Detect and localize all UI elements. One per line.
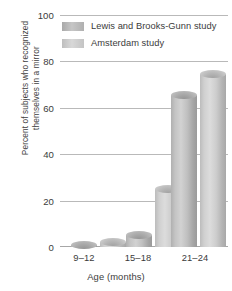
legend: Lewis and Brooks-Gunn study Amsterdam st…	[62, 19, 216, 53]
y-tick-label-0: 0	[28, 242, 54, 253]
legend-label-series-b: Amsterdam study	[91, 38, 164, 48]
legend-item-lewis-brooks-gunn: Lewis and Brooks-Gunn study	[62, 19, 216, 33]
bar-9-12-series-2	[100, 242, 126, 247]
x-tick-label-2: 21–24	[167, 252, 223, 263]
gridline-80	[60, 61, 228, 62]
x-tick-label-0: 9–12	[56, 252, 112, 263]
legend-swatch-icon-series-b	[62, 39, 84, 48]
bar-cap	[71, 241, 97, 249]
bar-9-12-series-1	[71, 245, 97, 247]
y-tick-label-80: 80	[28, 56, 54, 67]
y-tick-label-100: 100	[28, 10, 54, 21]
x-axis-title: Age (months)	[0, 271, 232, 282]
bar-cap	[171, 91, 197, 99]
y-tick-label-20: 20	[28, 195, 54, 206]
bar-21-24-series-2	[200, 74, 226, 247]
bar-cap	[200, 70, 226, 78]
legend-item-amsterdam: Amsterdam study	[62, 36, 216, 50]
bar-chart: Percent of subjects who recognized thems…	[0, 0, 232, 291]
y-tick-label-40: 40	[28, 149, 54, 160]
gridline-100	[60, 15, 228, 16]
bar-21-24-series-1	[171, 95, 197, 247]
x-tick-label-1: 15–18	[110, 252, 166, 263]
bar-15-18-series-1	[126, 235, 152, 247]
legend-label-series-a: Lewis and Brooks-Gunn study	[91, 21, 216, 31]
bar-body	[171, 95, 197, 247]
y-tick-label-60: 60	[28, 102, 54, 113]
bar-body	[200, 74, 226, 247]
legend-swatch-icon-series-a	[62, 22, 84, 31]
